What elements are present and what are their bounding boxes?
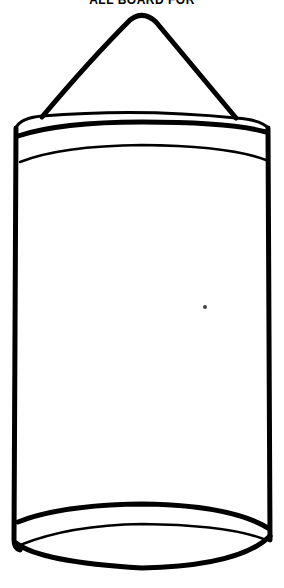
speck-mark — [203, 305, 207, 309]
punching-bag-drawing — [0, 0, 284, 588]
hanger-rope-icon — [42, 15, 236, 118]
cylinder-left-side-icon — [14, 128, 20, 550]
cylinder-right-side-icon — [268, 128, 270, 540]
